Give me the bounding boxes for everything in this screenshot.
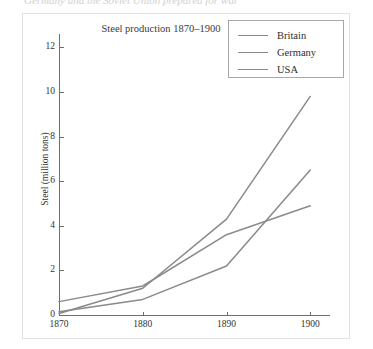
series-line-usa: [59, 96, 310, 313]
legend-swatch-britain: [238, 35, 268, 36]
top-caption-strip: Germany and the Soviet Union prepared fo…: [0, 0, 373, 12]
legend-label-germany: Germany: [277, 47, 316, 58]
legend-label-britain: Britain: [277, 30, 306, 41]
legend-item-britain: Britain: [238, 27, 343, 43]
legend-label-usa: USA: [277, 64, 298, 75]
legend-swatch-germany: [238, 52, 268, 53]
legend-item-usa: USA: [238, 61, 343, 77]
chart-legend: Britain Germany USA: [228, 20, 344, 78]
series-line-germany: [59, 170, 310, 312]
legend-item-germany: Germany: [238, 44, 343, 60]
legend-swatch-usa: [238, 69, 268, 70]
figure-frame: Steel production 1870–1900 024681012 187…: [22, 13, 350, 339]
top-caption-text: Germany and the Soviet Union prepared fo…: [24, 0, 238, 6]
chart-page: Germany and the Soviet Union prepared fo…: [0, 0, 373, 349]
